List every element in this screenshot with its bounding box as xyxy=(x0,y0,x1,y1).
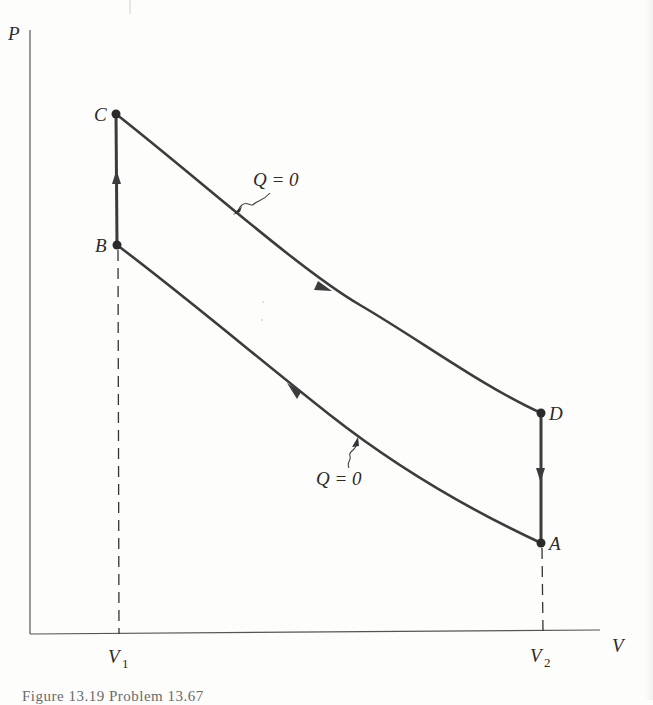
lower-q-zero-label: Q = 0 xyxy=(316,468,362,489)
lower-pointer-arrowhead-icon xyxy=(352,437,359,447)
point-d-dot xyxy=(537,409,546,418)
upper-squiggle-pointer xyxy=(236,193,270,212)
arrow-up-icon xyxy=(112,170,121,184)
v1-dashed-guide xyxy=(118,250,119,634)
svg-text:2: 2 xyxy=(544,655,551,670)
point-d-label: D xyxy=(548,403,563,424)
speck xyxy=(261,319,263,321)
v1-tick-label: V 1 xyxy=(108,646,129,671)
svg-text:V: V xyxy=(108,646,122,667)
point-c-label: C xyxy=(94,104,107,125)
point-a-label: A xyxy=(547,533,561,554)
figure-caption-cropped: Figure 13.19 Problem 13.67 xyxy=(22,688,204,705)
arrow-down-icon xyxy=(536,468,545,482)
v2-dashed-guide xyxy=(542,548,543,632)
v-axis xyxy=(30,630,600,634)
point-c-dot xyxy=(112,110,121,119)
v-axis-label: V xyxy=(612,635,626,656)
speck xyxy=(262,301,264,303)
process-c-to-d-adiabat xyxy=(116,114,541,413)
p-axis-label: P xyxy=(7,23,20,44)
point-b-label: B xyxy=(95,235,107,256)
upper-q-zero-label: Q = 0 xyxy=(253,169,299,190)
svg-text:V: V xyxy=(530,645,544,666)
point-a-dot xyxy=(537,539,546,548)
svg-text:1: 1 xyxy=(122,656,129,671)
lower-squiggle-pointer xyxy=(348,446,356,468)
v2-tick-label: V 2 xyxy=(530,645,551,670)
point-b-dot xyxy=(113,241,122,250)
